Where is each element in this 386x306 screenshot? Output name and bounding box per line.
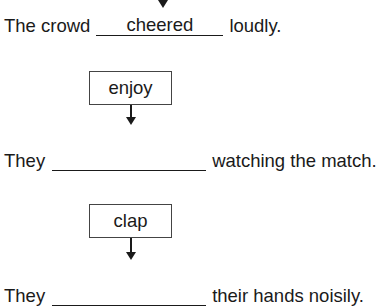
- sentence-3-before: They: [4, 285, 45, 306]
- sentence-2-after: watching the match.: [212, 150, 377, 171]
- prompt-word-box-enjoy: enjoy: [89, 71, 172, 105]
- prompt-word-3: clap: [114, 210, 148, 231]
- prompt-word-box-clap: clap: [89, 204, 172, 238]
- prompt-word-2: enjoy: [108, 77, 152, 98]
- answer-blank-2[interactable]: [52, 150, 206, 171]
- sentence-1-before: The crowd: [4, 15, 90, 36]
- answer-1: cheered: [126, 14, 193, 35]
- arrow-down-icon: [162, 0, 164, 2]
- answer-blank-3[interactable]: [52, 285, 206, 306]
- arrow-down-icon: [130, 105, 132, 119]
- sentence-3: Theytheir hands noisily.: [4, 285, 364, 306]
- answer-blank-1[interactable]: cheered: [96, 15, 223, 36]
- arrow-down-icon: [130, 238, 132, 254]
- sentence-1: The crowdcheeredloudly.: [4, 15, 281, 36]
- sentence-2: Theywatching the match.: [4, 150, 377, 171]
- sentence-1-after: loudly.: [229, 15, 281, 36]
- sentence-2-before: They: [4, 150, 45, 171]
- sentence-3-after: their hands noisily.: [212, 285, 364, 306]
